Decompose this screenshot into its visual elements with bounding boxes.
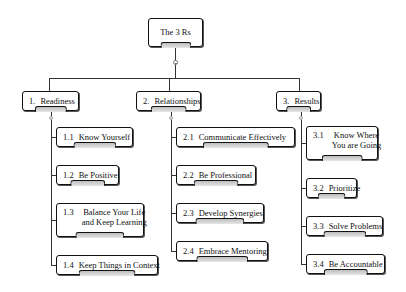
node-number: 3.4 (313, 259, 324, 269)
child-node-1-3[interactable]: 1.3 Balance Your Life and Keep Learning (56, 203, 144, 237)
node-tab (73, 142, 116, 148)
node-label: Know Yourself (79, 132, 130, 142)
node-label: Be Positive (79, 170, 118, 180)
node-tab (150, 106, 187, 112)
node-tab (79, 270, 136, 276)
node-label-wrap: Balance Your Life and Keep Learning (82, 207, 147, 227)
node-number: 3. (283, 96, 289, 106)
node-tab (196, 256, 248, 262)
node-number: 3.2 (313, 183, 324, 193)
node-label: Be Accountable (329, 259, 383, 269)
branch-3-collapse-icon[interactable] (299, 116, 303, 120)
child-node-3-2[interactable]: 3.2 Prioritize (306, 178, 357, 198)
node-tab (70, 180, 106, 186)
child-node-2-1[interactable]: 2.1 Communicate Effectively (176, 127, 295, 147)
branch-1-spine (51, 111, 52, 266)
node-label: Relationships (154, 96, 200, 106)
branch-node-results[interactable]: 3. Results (276, 91, 321, 111)
node-tab (194, 180, 239, 186)
node-label-line2: and Keep Learning (82, 217, 147, 227)
node-number: 1.4 (63, 260, 74, 270)
node-number: 1. (29, 96, 35, 106)
child-node-3-3[interactable]: 3.3 Solve Problems (306, 216, 383, 236)
node-label: Solve Problems (329, 221, 383, 231)
child-node-1-1[interactable]: 1.1 Know Yourself (56, 127, 133, 147)
branch-node-readiness[interactable]: 1. Readiness (22, 91, 79, 111)
level1-horizontal-connector (49, 78, 300, 79)
node-label: Be Professional (199, 170, 253, 180)
node-number: 2.1 (183, 132, 194, 142)
branch-2-spine (171, 111, 172, 252)
child-node-1-4[interactable]: 1.4 Keep Things in Context (56, 255, 158, 275)
node-label: Prioritize (329, 183, 361, 193)
node-tab (322, 155, 363, 161)
branch-1-drop (49, 78, 50, 91)
node-tab (160, 42, 191, 48)
child-node-2-3[interactable]: 2.3 Develop Synergies (176, 203, 264, 223)
node-number: 1.1 (63, 132, 74, 142)
node-number: 3.3 (313, 221, 324, 231)
node-number: 2.2 (183, 170, 194, 180)
child-node-2-4[interactable]: 2.4 Embrace Mentoring (176, 241, 268, 261)
node-number: 2.4 (183, 246, 194, 256)
node-label: Readiness (40, 96, 74, 106)
branch-1-collapse-icon[interactable] (49, 116, 53, 120)
node-tab (195, 218, 244, 224)
collapse-toggle-icon[interactable] (173, 60, 178, 65)
child-node-2-2[interactable]: 2.2 Be Professional (176, 165, 256, 185)
node-label: Keep Things in Context (79, 260, 160, 270)
child-node-3-1[interactable]: 3.1 Know Where You are Going (306, 126, 378, 160)
node-tab (323, 269, 367, 275)
node-tab (202, 142, 268, 148)
node-tab (75, 232, 124, 238)
node-tab (34, 106, 66, 112)
node-label: Embrace Mentoring (199, 246, 267, 256)
child-node-1-2[interactable]: 1.2 Be Positive (56, 165, 119, 185)
node-label: Balance Your Life (83, 207, 145, 217)
branch-2-collapse-icon[interactable] (169, 116, 173, 120)
child-node-3-4[interactable]: 3.4 Be Accountable (306, 254, 385, 274)
node-tab (286, 106, 312, 112)
branch-3-drop (299, 78, 300, 91)
branch-2-drop (169, 78, 170, 91)
node-label: Know Where (334, 130, 379, 140)
branch-node-relationships[interactable]: 2. Relationships (136, 91, 201, 111)
node-number: 3.1 (313, 130, 324, 140)
root-label: The 3 Rs (160, 27, 191, 37)
root-node[interactable]: The 3 Rs (148, 18, 203, 47)
node-label: Develop Synergies (199, 208, 263, 218)
node-label-wrap: Know Where You are Going (332, 130, 382, 150)
node-number: 1.2 (63, 170, 74, 180)
node-tab (323, 231, 366, 237)
node-label: Results (294, 96, 319, 106)
node-number: 1.3 (63, 207, 74, 217)
node-number: 2. (143, 96, 149, 106)
node-label: Communicate Effectively (199, 132, 286, 142)
node-tab (317, 193, 346, 199)
node-number: 2.3 (183, 208, 194, 218)
node-label-line2: You are Going (332, 140, 382, 150)
